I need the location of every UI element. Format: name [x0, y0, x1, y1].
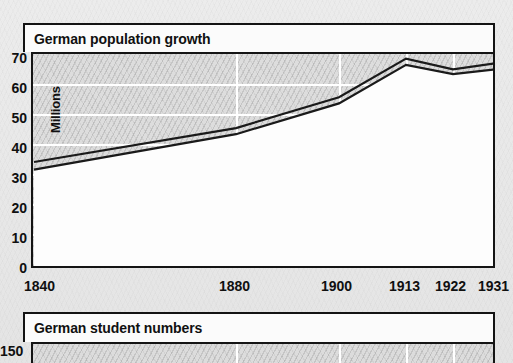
- chart2-title: German student numbers: [34, 320, 202, 336]
- plot-area-population: [31, 52, 495, 268]
- plot2-background-hatch: [33, 344, 493, 363]
- x-tick-1840: 1840: [24, 279, 55, 293]
- chart2-gridline-v-3: [406, 344, 408, 363]
- x-tick-1900: 1900: [321, 279, 352, 293]
- y-axis-label: Millions: [48, 86, 63, 133]
- chart-german-student-numbers: German student numbers 150: [0, 312, 513, 363]
- x-tick-1931: 1931: [478, 279, 509, 293]
- y-tick-60: 60: [0, 81, 27, 95]
- y-tick-50: 50: [0, 111, 27, 125]
- chart2-gridline-v-2: [339, 344, 341, 363]
- chart2-y-tick-150: 150: [0, 344, 23, 358]
- chart2-title-box: German student numbers: [23, 312, 495, 342]
- y-tick-10: 10: [0, 231, 27, 245]
- page-title: German population growth: [34, 31, 210, 47]
- plot-area-students: [31, 342, 495, 363]
- x-tick-1880: 1880: [219, 279, 250, 293]
- screenshot-page: German population growth: [0, 0, 513, 363]
- chart-german-population-growth: German population growth: [0, 0, 513, 300]
- chart2-gridline-v-4: [453, 344, 455, 363]
- population-curve-svg: [33, 54, 495, 268]
- x-tick-1922: 1922: [435, 279, 466, 293]
- x-tick-1913: 1913: [389, 279, 420, 293]
- area-below-curve: [34, 65, 495, 268]
- chart-title-box: German population growth: [23, 23, 495, 52]
- y-tick-70: 70: [0, 51, 27, 65]
- chart2-gridline-v-1: [236, 344, 238, 363]
- y-tick-30: 30: [0, 171, 27, 185]
- y-tick-0: 0: [0, 261, 27, 275]
- y-tick-20: 20: [0, 201, 27, 215]
- y-tick-40: 40: [0, 141, 27, 155]
